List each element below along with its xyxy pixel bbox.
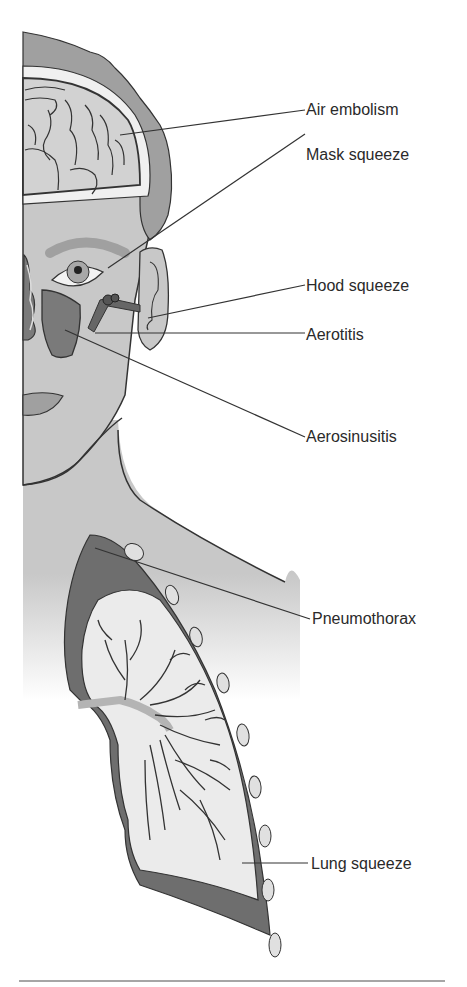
label-aerotitis: Aerotitis: [306, 326, 364, 344]
ear: [138, 248, 168, 350]
label-air-embolism: Air embolism: [306, 101, 398, 119]
label-pneumothorax: Pneumothorax: [312, 610, 416, 628]
label-hood-squeeze: Hood squeeze: [306, 277, 409, 295]
label-aerosinusitis: Aerosinusitis: [306, 428, 397, 446]
leader-hood-squeeze: [148, 285, 305, 318]
label-lung-squeeze: Lung squeeze: [311, 855, 412, 873]
label-mask-squeeze: Mask squeeze: [306, 146, 409, 164]
